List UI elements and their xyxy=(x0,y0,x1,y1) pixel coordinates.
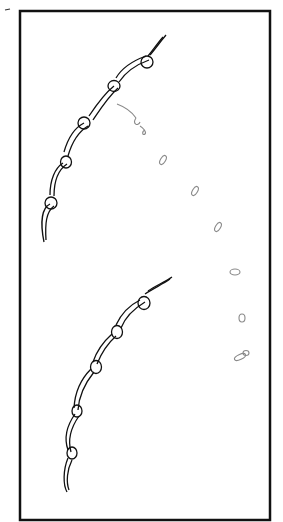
lower-chain xyxy=(64,277,172,492)
corner-mark xyxy=(5,9,10,10)
upper-chain xyxy=(42,35,166,242)
frame xyxy=(20,11,270,520)
guide-marks xyxy=(117,104,249,362)
stitch-illustration xyxy=(0,0,283,522)
